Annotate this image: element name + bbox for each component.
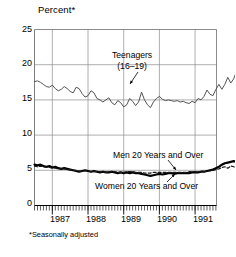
x-tick-label-1991: 1991 <box>187 214 219 224</box>
unemployment-rate-chart: Percent* 25 20 15 10 5 0 1987 1988 1989 … <box>0 0 235 257</box>
series-line-men <box>35 160 236 175</box>
y-tick-label-25: 25 <box>10 24 32 34</box>
y-axis-title: Percent* <box>38 4 75 15</box>
annotation-teenagers-line1: Teenagers <box>112 50 152 61</box>
series-line-women <box>35 166 236 173</box>
y-tick-label-20: 20 <box>10 58 32 68</box>
x-tick-label-1988: 1988 <box>80 214 112 224</box>
x-tick-label-1989: 1989 <box>115 214 147 224</box>
annotation-arrows-group <box>130 72 176 182</box>
x-tick-label-1990: 1990 <box>151 214 183 224</box>
annotation-men: Men 20 Years and Over <box>113 150 203 161</box>
y-tick-label-10: 10 <box>10 128 32 138</box>
chart-footnote: *Seasonally adjusted <box>29 230 98 239</box>
x-tick-label-1987: 1987 <box>44 214 76 224</box>
arrow-teenagers <box>130 72 138 84</box>
annotation-teenagers: Teenagers (16–19) <box>112 50 152 71</box>
y-tick-label-15: 15 <box>10 93 32 103</box>
x-minor-ticks-group <box>35 206 216 211</box>
annotation-teenagers-line2: (16–19) <box>112 61 152 72</box>
y-tick-label-0: 0 <box>10 198 32 208</box>
arrow-men <box>168 160 176 170</box>
annotation-women: Women 20 Years and Over <box>95 181 198 192</box>
y-tick-label-5: 5 <box>10 163 32 173</box>
